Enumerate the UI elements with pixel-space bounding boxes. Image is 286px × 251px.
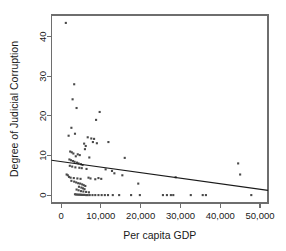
data-point [85, 168, 87, 170]
axis-ticks [47, 37, 260, 208]
data-point [97, 177, 99, 179]
data-point [93, 138, 95, 140]
data-point [74, 133, 76, 135]
data-point [79, 183, 81, 185]
data-point [90, 137, 92, 139]
data-point [100, 178, 102, 180]
data-point [91, 194, 93, 196]
data-points [65, 22, 253, 196]
data-point [75, 181, 77, 183]
data-point [81, 167, 83, 169]
data-point [70, 180, 72, 182]
data-point [74, 161, 76, 163]
data-point [83, 143, 85, 145]
data-point [78, 186, 80, 188]
data-point [94, 178, 96, 180]
data-point [107, 194, 109, 196]
data-point [113, 172, 115, 174]
x-axis-tick-label: 40,000 [206, 210, 235, 221]
data-point [71, 166, 73, 168]
data-point [68, 135, 70, 137]
data-point [99, 111, 101, 113]
data-point [84, 185, 86, 187]
y-axis-tick-label: 0 [38, 192, 49, 197]
data-point [69, 165, 71, 167]
data-point [124, 157, 126, 159]
data-point [205, 194, 207, 196]
data-point [112, 194, 114, 196]
data-point [92, 141, 94, 143]
data-point [105, 168, 107, 170]
data-point [101, 194, 103, 196]
data-point [85, 191, 87, 193]
data-point [87, 194, 89, 196]
data-point [111, 170, 113, 172]
y-axis-tick-label: 40 [38, 31, 49, 42]
data-point [80, 178, 82, 180]
data-point [89, 194, 91, 196]
data-point [237, 162, 239, 164]
data-point [76, 188, 78, 190]
scatter-plot-figure: 010,00020,00030,00040,00050,000010203040… [0, 0, 286, 251]
data-point [130, 194, 132, 196]
data-point [190, 194, 192, 196]
y-axis-tick-label: 30 [38, 71, 49, 82]
data-point [170, 194, 172, 196]
data-point [70, 127, 72, 129]
data-point [121, 174, 123, 176]
data-point [73, 181, 75, 183]
y-axis-tick-label: 10 [38, 150, 49, 161]
x-axis-title: Per capita GDP [123, 229, 196, 241]
x-axis-tick-label: 10,000 [86, 210, 115, 221]
data-point [82, 190, 84, 192]
data-point [95, 119, 97, 121]
plot-canvas: 010,00020,00030,00040,00050,000010203040… [0, 0, 286, 251]
data-point [73, 83, 75, 85]
data-point [137, 183, 139, 185]
data-point [87, 136, 89, 138]
data-point [80, 190, 82, 192]
data-point [162, 194, 164, 196]
data-point [77, 153, 79, 155]
data-point [72, 98, 74, 100]
data-point [104, 194, 106, 196]
data-point [78, 189, 80, 191]
data-point [88, 191, 90, 193]
data-point [76, 177, 78, 179]
x-axis-tick-label: 20,000 [126, 210, 155, 221]
data-point [77, 182, 79, 184]
data-point [75, 155, 77, 157]
x-axis-tick-label: 0 [58, 210, 63, 221]
data-point [94, 194, 96, 196]
data-point [84, 148, 86, 150]
y-axis-title: Degree of Judicial Corruption [8, 41, 20, 177]
axis-tick-labels: 010,00020,00030,00040,00050,000010203040 [38, 31, 275, 220]
data-point [139, 194, 141, 196]
data-point [83, 188, 85, 190]
data-point [79, 154, 81, 156]
y-axis-tick-label: 20 [38, 111, 49, 122]
data-point [87, 177, 89, 179]
data-point [78, 167, 80, 169]
data-point [250, 194, 252, 196]
data-point [73, 177, 75, 179]
data-point [97, 194, 99, 196]
data-point [202, 194, 204, 196]
data-point [107, 141, 109, 143]
data-point [72, 152, 74, 154]
data-point [85, 145, 87, 147]
data-point [89, 177, 91, 179]
data-point [118, 194, 120, 196]
data-point [76, 107, 78, 109]
data-point [70, 177, 72, 179]
data-point [166, 194, 168, 196]
data-point [74, 166, 76, 168]
data-point [96, 142, 98, 144]
data-point [239, 173, 241, 175]
x-axis-tick-label: 50,000 [246, 210, 275, 221]
data-point [88, 156, 90, 158]
data-point [70, 159, 72, 161]
data-point [65, 22, 67, 24]
data-point [172, 194, 174, 196]
x-axis-tick-label: 30,000 [166, 210, 195, 221]
